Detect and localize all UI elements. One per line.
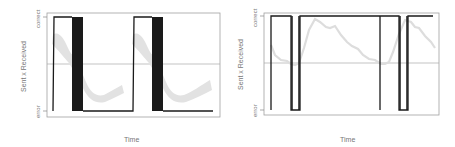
y-tick-label-correct: correct [35, 10, 41, 28]
trend-band [52, 33, 124, 102]
trend-line [271, 19, 435, 65]
chart-right: correct error Sent x Received Time [225, 0, 453, 147]
signal-dense-block [152, 17, 163, 111]
y-tick-label-error: error [252, 104, 258, 117]
chart-right-plot [225, 0, 455, 147]
y-axis-label: Sent x Received [237, 39, 244, 90]
y-axis-label: Sent x Received [20, 41, 27, 92]
x-axis-label: Time [124, 136, 139, 143]
y-tick-label-error: error [35, 105, 41, 118]
trend-band [132, 33, 212, 102]
y-tick-label-correct: correct [252, 9, 258, 27]
x-axis-label: Time [340, 136, 355, 143]
signal-dense-block [72, 17, 83, 111]
chart-left: correct error Sent x Received Time [0, 0, 228, 147]
